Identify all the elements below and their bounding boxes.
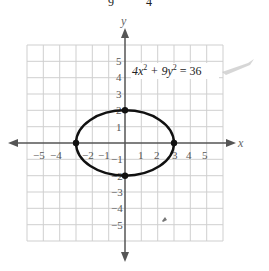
x-axis-arrow-left — [8, 139, 18, 147]
svg-text:−4: −4 — [50, 149, 62, 161]
pencil-smudge — [222, 59, 254, 75]
y-axis-label: y — [120, 14, 127, 28]
svg-text:−1: −1 — [98, 149, 110, 161]
equation-label: 4x2 + 9y2 = 36 — [132, 63, 202, 78]
svg-text:3: 3 — [116, 88, 122, 100]
svg-text:1: 1 — [138, 149, 144, 161]
x-axis-arrow-right — [226, 139, 236, 147]
svg-text:2: 2 — [154, 149, 160, 161]
header-fragment-left: 9 — [108, 0, 114, 9]
svg-text:5: 5 — [116, 55, 122, 67]
svg-text:−4: −4 — [111, 202, 123, 214]
header-fragment-right: 4 — [146, 0, 152, 9]
ink-mark — [162, 217, 167, 222]
y-axis-arrow-down — [121, 252, 129, 262]
svg-text:−5: −5 — [33, 149, 45, 161]
svg-text:1: 1 — [116, 121, 122, 133]
svg-text:5: 5 — [202, 149, 208, 161]
svg-text:−3: −3 — [111, 186, 123, 198]
ellipse-graph: 9 4 x y −5 −4 −2 −1 1 2 3 4 5 5 — [0, 0, 269, 271]
x-axis-label: x — [237, 136, 244, 150]
svg-text:−5: −5 — [111, 219, 123, 231]
svg-text:4: 4 — [116, 71, 122, 83]
svg-text:4: 4 — [186, 149, 192, 161]
y-axis-arrow-up — [121, 28, 129, 38]
svg-text:−1: −1 — [111, 153, 123, 165]
